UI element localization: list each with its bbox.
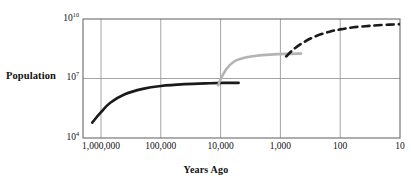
series-layer <box>92 24 400 122</box>
series-line-agricultural-phase <box>218 54 301 86</box>
y-tick-label: 107 <box>52 72 79 82</box>
series-line-industrial-phase <box>286 24 400 56</box>
y-tick-label: 1010 <box>52 13 79 23</box>
gridlines <box>83 19 400 138</box>
y-tick-label: 104 <box>52 132 79 142</box>
plot-area <box>0 0 412 188</box>
population-vs-years-ago-chart: Population Years Ago 1010107104 1,000,00… <box>0 0 412 188</box>
series-line-hunter-gatherer-phase <box>92 83 238 123</box>
x-tick-label: 10 <box>360 141 412 151</box>
